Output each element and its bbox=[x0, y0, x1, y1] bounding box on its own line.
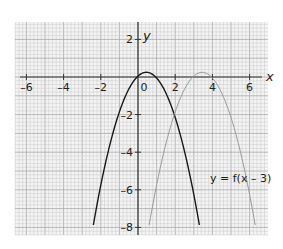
x-tick-label: –2 bbox=[95, 81, 108, 94]
x-tick-label: 0 bbox=[141, 81, 148, 94]
curve-annotation: y = f(x – 3) bbox=[210, 172, 271, 185]
y-tick-label: –4 bbox=[121, 146, 134, 159]
x-axis-label: x bbox=[265, 69, 274, 84]
x-tick-label: –6 bbox=[20, 81, 33, 94]
y-tick-label: –2 bbox=[121, 109, 134, 122]
y-axis-label: y bbox=[142, 28, 151, 43]
x-tick-label: 2 bbox=[172, 81, 179, 94]
y-tick-label: 2 bbox=[126, 33, 133, 46]
grid-lines bbox=[15, 22, 268, 235]
graph-chart: –6–4–202462–2–4–6–8 x y y = f(x – 3) bbox=[0, 0, 283, 249]
x-tick-label: –4 bbox=[57, 81, 70, 94]
y-tick-label: –6 bbox=[121, 184, 134, 197]
x-tick-label: 6 bbox=[246, 81, 253, 94]
x-tick-label: 4 bbox=[209, 81, 216, 94]
y-tick-label: –8 bbox=[121, 221, 134, 234]
